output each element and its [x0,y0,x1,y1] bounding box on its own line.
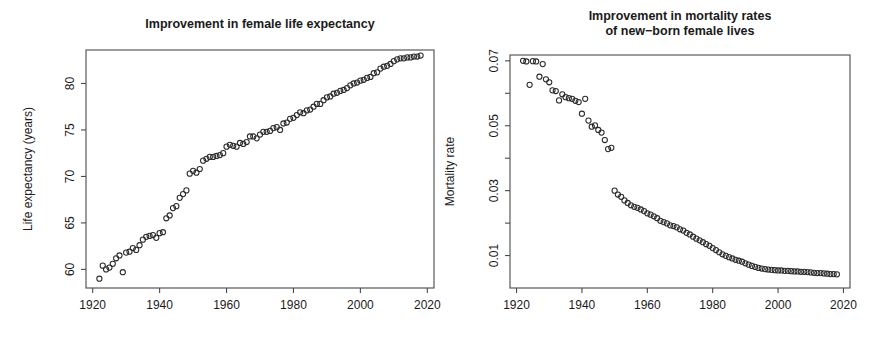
data-point [534,59,539,64]
data-point [97,276,102,281]
data-point [164,216,169,221]
data-point [408,55,413,60]
y-tick-label: 60 [63,262,77,276]
data-point [147,233,152,238]
y-tick-label: 0.05 [487,114,501,138]
data-point [547,80,552,85]
data-point [553,88,558,93]
data-point [401,56,406,61]
chart-panel-mortality-rate: Improvement in mortality ratesof new−bor… [440,0,886,337]
data-point [609,145,614,150]
data-point [271,125,276,130]
data-point [167,213,172,218]
chart-title-line-2: of new−born female lives [605,24,754,38]
data-point [137,243,142,248]
data-point [144,234,149,239]
y-tick-label: 80 [63,76,77,90]
data-point [583,96,588,101]
data-point [114,256,119,261]
data-point [733,257,738,262]
data-point [527,82,532,87]
data-point [602,137,607,142]
plot-box [510,55,850,288]
y-tick-label: 65 [63,216,77,230]
data-point [154,235,159,240]
data-point [214,153,219,158]
data-point [211,154,216,159]
y-tick-label: 0.01 [487,244,501,268]
data-point [197,166,202,171]
data-point [579,111,584,116]
data-point [589,124,594,129]
x-tick-label: 1960 [213,298,240,312]
data-point [291,115,296,120]
chart-title-line-1: Improvement in mortality rates [589,9,772,23]
data-point [543,77,548,82]
data-point [331,91,336,96]
data-point [264,129,269,134]
data-point [117,253,122,258]
data-point [563,95,568,100]
scatter-plot-female-life-expectancy: Improvement in female life expectancyLif… [0,0,446,337]
data-point [301,111,306,116]
y-axis-label: Mortality rate [443,137,457,207]
data-point [311,104,316,109]
data-point [237,140,242,145]
data-point [321,98,326,103]
data-point [298,110,303,115]
data-point [586,118,591,123]
data-point [753,264,758,269]
data-point [726,255,731,260]
data-point [288,116,293,121]
data-point-group [520,58,839,277]
x-tick-label: 1920 [503,298,530,312]
data-point [661,220,666,225]
data-point [150,232,155,237]
x-tick-label: 1980 [699,298,726,312]
data-point [277,127,282,132]
x-tick-label: 2000 [765,298,792,312]
data-point [231,143,236,148]
data-point [736,258,741,263]
data-point [274,125,279,130]
data-point-group [97,53,423,281]
data-point [730,256,735,261]
data-point [187,171,192,176]
plot-box [86,50,434,288]
data-point [746,262,751,267]
x-tick-label: 1920 [79,298,106,312]
x-tick-label: 2000 [347,298,374,312]
y-axis-label: Life expectancy (years) [21,107,35,231]
x-tick-label: 2020 [414,298,441,312]
y-tick-label: 75 [63,123,77,137]
data-point [671,223,676,228]
x-tick-label: 1940 [569,298,596,312]
data-point [560,92,565,97]
data-point [308,107,313,112]
data-point [324,95,329,100]
scatter-plot-newborn-female-mortality: Improvement in mortality ratesof new−bor… [440,0,886,337]
y-tick-label: 70 [63,169,77,183]
data-point [184,188,189,193]
x-tick-label: 2020 [830,298,857,312]
x-tick-label: 1940 [146,298,173,312]
data-point [294,112,299,117]
data-point [124,250,129,255]
data-point [281,121,286,126]
data-point [371,71,376,76]
data-point [524,59,529,64]
y-tick-label: 0.07 [487,49,501,73]
x-tick-label: 1960 [634,298,661,312]
data-point [605,147,610,152]
figure-container: Improvement in female life expectancyLif… [0,0,886,337]
chart-panel-life-expectancy: Improvement in female life expectancyLif… [0,0,446,337]
data-point [415,54,420,59]
data-point [160,230,165,235]
data-point [576,99,581,104]
data-point [304,108,309,113]
data-point [267,128,272,133]
data-point [328,94,333,99]
y-tick-label: 0.03 [487,179,501,203]
data-point [540,61,545,66]
data-point [120,270,125,275]
